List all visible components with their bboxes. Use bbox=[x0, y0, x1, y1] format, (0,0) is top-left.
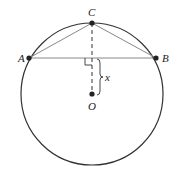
point-c bbox=[89, 20, 94, 25]
label-b: B bbox=[162, 52, 169, 64]
geometry-figure: A B C O x bbox=[0, 0, 179, 175]
diagram-canvas: A B C O x bbox=[0, 0, 179, 175]
point-a bbox=[26, 55, 31, 60]
point-b bbox=[153, 55, 158, 60]
x-brace bbox=[97, 59, 103, 95]
label-a: A bbox=[17, 52, 25, 64]
label-x: x bbox=[104, 71, 110, 83]
point-o bbox=[89, 91, 94, 96]
segment-cb bbox=[92, 23, 156, 58]
label-o: O bbox=[88, 100, 96, 112]
right-angle-marker bbox=[85, 58, 92, 65]
segment-ac bbox=[29, 23, 92, 58]
label-c: C bbox=[88, 6, 96, 18]
